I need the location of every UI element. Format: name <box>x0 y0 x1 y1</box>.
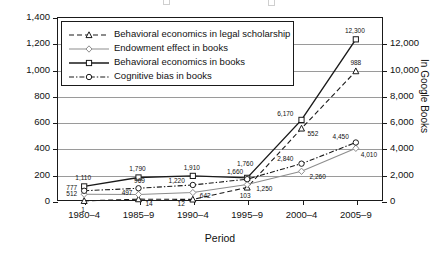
data-point-label: 1,220 <box>169 177 186 184</box>
x-axis-tick-label: 1985–9 <box>123 209 155 220</box>
y-axis-left-tick-label: 1,200 <box>26 37 50 48</box>
data-point-label: 1,250 <box>256 185 273 192</box>
data-point-label: 1,790 <box>129 165 146 172</box>
legend-key-diamond-icon <box>67 41 111 53</box>
data-point-label: 4,010 <box>361 151 378 158</box>
data-point-label: 497 <box>122 189 133 196</box>
data-point-label: 12 <box>178 200 186 207</box>
data-point-label: 103 <box>240 192 251 199</box>
chart-figure: In legal scholarship In Google Books Per… <box>0 0 441 254</box>
y-axis-right-tick-label: 2,000 <box>390 169 414 180</box>
data-point-marker <box>86 74 91 79</box>
data-point-label: 969 <box>134 177 145 184</box>
data-point-marker <box>190 182 195 187</box>
series-line <box>84 148 356 194</box>
data-point-label: 552 <box>308 130 319 137</box>
data-point-marker <box>86 60 91 65</box>
data-point-marker <box>299 168 305 174</box>
data-point-marker <box>86 46 92 52</box>
y-axis-right-tick-label: 12,000 <box>390 37 419 48</box>
legend-key-square-icon <box>67 55 111 67</box>
legend-key-triangle-icon <box>67 27 111 39</box>
y-axis-right-tick-label: 6,000 <box>390 116 414 127</box>
y-axis-left-tick-label: 800 <box>34 90 50 101</box>
y-axis-left-tick-label: 400 <box>34 142 50 153</box>
data-point-label: 988 <box>350 59 361 66</box>
y-axis-left-tick-label: 600 <box>34 116 50 127</box>
data-point-marker <box>81 188 86 193</box>
legend-label: Endowment effect in books <box>111 42 228 53</box>
x-axis-tick-label: 2005–9 <box>340 209 372 220</box>
legend-key-circle-icon <box>67 69 111 81</box>
data-point-label: 642 <box>200 192 211 199</box>
data-point-marker <box>353 68 359 74</box>
data-point-marker <box>353 37 358 42</box>
data-point-label: 777 <box>66 184 77 191</box>
data-point-marker <box>244 176 249 181</box>
legend-label: Behavioral economics in books <box>111 56 245 67</box>
data-point-marker <box>190 173 195 178</box>
data-point-label: 1,760 <box>237 160 254 167</box>
x-axis-tick-label: 1980–4 <box>68 209 100 220</box>
y-axis-right-tick-label: 10,000 <box>390 64 419 75</box>
x-axis-tick-label: 1995–9 <box>231 209 263 220</box>
data-point-marker <box>299 117 304 122</box>
x-axis-tick-label: 1990–4 <box>177 209 209 220</box>
data-point-marker <box>299 161 304 166</box>
data-point-label: 12,300 <box>345 27 365 34</box>
legend-item[interactable]: Behavioral economics in legal scholarshi… <box>67 26 288 40</box>
data-point-marker <box>299 125 305 131</box>
data-point-marker <box>190 189 196 195</box>
data-point-label: 4,450 <box>333 133 350 140</box>
data-point-label: 6,170 <box>277 110 294 117</box>
data-point-label: 512 <box>66 190 77 197</box>
legend-label: Cognitive bias in books <box>111 70 212 81</box>
y-axis-right-tick-label: 8,000 <box>390 90 414 101</box>
y-axis-left-tick-label: 200 <box>34 169 50 180</box>
y-axis-left-tick-label: 1,000 <box>26 64 50 75</box>
legend-label: Behavioral economics in legal scholarshi… <box>111 28 290 39</box>
x-axis-tick-label: 2000–4 <box>286 209 318 220</box>
y-axis-right-tick-label: 4,000 <box>390 142 414 153</box>
data-point-marker <box>353 145 359 151</box>
chart-legend: Behavioral economics in legal scholarshi… <box>61 21 294 86</box>
data-point-marker <box>136 191 142 197</box>
data-point-label: 1,660 <box>227 168 244 175</box>
y-axis-left-tick-label: 0 <box>45 195 50 206</box>
data-point-marker <box>353 140 358 145</box>
data-point-label: 2,840 <box>277 155 294 162</box>
legend-item[interactable]: Endowment effect in books <box>67 40 288 54</box>
legend-item[interactable]: Cognitive bias in books <box>67 68 288 82</box>
legend-item[interactable]: Behavioral economics in books <box>67 54 288 68</box>
y-axis-left-tick-label: 1,400 <box>26 11 50 22</box>
data-point-label: 1,910 <box>184 164 201 171</box>
series-line <box>84 143 356 191</box>
y-axis-right-tick-label: 0 <box>390 195 395 206</box>
data-point-label: 1,110 <box>75 174 91 181</box>
data-point-marker <box>136 186 141 191</box>
data-point-label: 2,260 <box>310 173 327 180</box>
data-point-label: 14 <box>146 200 154 207</box>
